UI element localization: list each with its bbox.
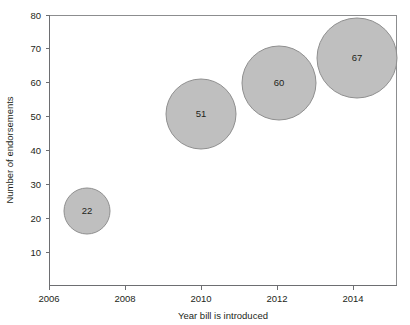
x-tick-label-2012: 2012 — [266, 293, 287, 304]
y-tick-label-70: 70 — [30, 43, 41, 54]
y-tick-label-80: 80 — [30, 10, 41, 21]
x-axis: 2006 2008 2010 2012 2014 Year bill is in… — [38, 286, 396, 322]
x-axis-ticks — [50, 286, 354, 290]
y-tick-label-60: 60 — [30, 77, 41, 88]
y-tick-label-30: 30 — [30, 179, 41, 190]
y-tick-label-40: 40 — [30, 145, 41, 156]
bubble-value-label-2012: 60 — [274, 77, 285, 88]
bubble-2007[interactable]: 22 — [64, 188, 110, 234]
bubble-2014[interactable]: 67 — [317, 18, 397, 98]
x-tick-label-2014: 2014 — [342, 293, 363, 304]
bubble-value-label-2014: 67 — [352, 52, 363, 63]
bubble-value-label-2010: 51 — [196, 108, 207, 119]
chart-canvas: 80 70 60 50 40 30 20 10 Number of endors… — [0, 0, 410, 325]
bubble-chart-figure: 80 70 60 50 40 30 20 10 Number of endors… — [0, 0, 410, 325]
x-tick-label-2006: 2006 — [38, 293, 59, 304]
y-axis-title: Number of endorsements — [4, 96, 15, 203]
y-axis-ticks — [46, 16, 50, 253]
bubble-value-label-2007: 22 — [82, 205, 93, 216]
bubble-2012[interactable]: 60 — [242, 46, 316, 120]
data-bubbles: 22 51 60 67 — [64, 18, 397, 234]
x-axis-title: Year bill is introduced — [178, 310, 268, 321]
x-tick-label-2008: 2008 — [114, 293, 135, 304]
x-axis-tick-labels: 2006 2008 2010 2012 2014 — [38, 293, 363, 304]
y-tick-label-50: 50 — [30, 111, 41, 122]
y-axis: 80 70 60 50 40 30 20 10 Number of endors… — [4, 10, 50, 286]
y-tick-label-10: 10 — [30, 247, 41, 258]
y-tick-label-20: 20 — [30, 213, 41, 224]
bubble-2010[interactable]: 51 — [166, 79, 236, 149]
x-tick-label-2010: 2010 — [190, 293, 211, 304]
y-axis-tick-labels: 80 70 60 50 40 30 20 10 — [30, 10, 41, 258]
